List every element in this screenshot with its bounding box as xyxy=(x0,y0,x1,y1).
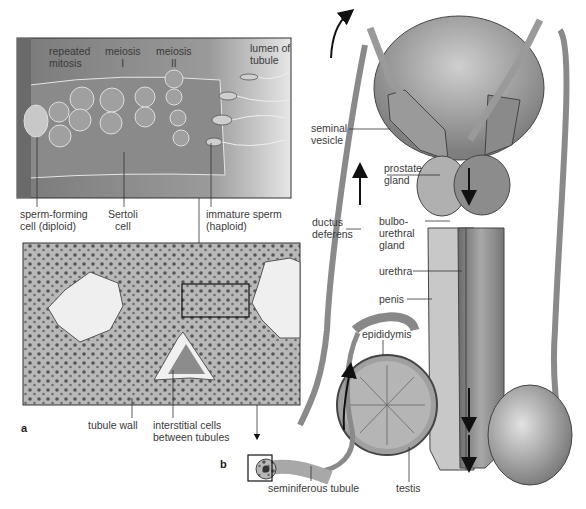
label-testis: testis xyxy=(396,482,421,494)
label-ductus-deferens: ductus deferens xyxy=(312,216,353,240)
label-seminiferous-tubule: seminiferous tubule xyxy=(268,482,359,494)
label-meiosis-2: meiosis II xyxy=(156,45,192,69)
testis-micrograph xyxy=(23,243,300,437)
label-lumen-of-tubule: lumen of tubule xyxy=(250,42,290,66)
label-meiosis-1: meiosis I xyxy=(105,45,141,69)
label-epididymis: epididymis xyxy=(362,328,412,340)
panel-letter-a: a xyxy=(21,422,27,434)
panel-letter-b: b xyxy=(220,458,227,470)
label-seminal-vesicle: seminal vesicle xyxy=(311,122,347,146)
label-bulbourethral-gland: bulbo- urethral gland xyxy=(379,215,415,251)
label-immature-sperm: immature sperm (haploid) xyxy=(206,208,282,232)
label-repeated-mitosis: repeated mitosis xyxy=(49,45,90,69)
label-interstitial-cells: interstitial cells between tubules xyxy=(153,419,229,443)
label-sperm-forming-cell: sperm-forming cell (diploid) xyxy=(20,208,88,232)
label-urethra: urethra xyxy=(379,265,412,277)
label-tubule-wall: tubule wall xyxy=(88,419,138,431)
reproductive-system-diagram xyxy=(0,0,586,509)
label-prostate-gland: prostate gland xyxy=(384,162,422,186)
label-sertoli-cell: Sertoli cell xyxy=(108,208,138,232)
label-penis: penis xyxy=(379,293,404,305)
